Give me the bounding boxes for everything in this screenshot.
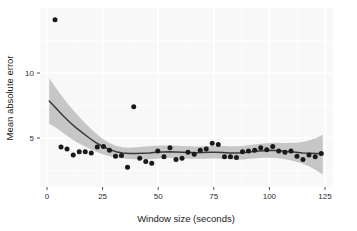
- svg-text:5: 5: [30, 134, 35, 143]
- svg-text:25: 25: [98, 192, 107, 201]
- svg-text:0: 0: [45, 192, 50, 201]
- svg-text:75: 75: [209, 192, 218, 201]
- x-axis-title: Window size (seconds): [137, 213, 235, 224]
- svg-text:100: 100: [263, 192, 277, 201]
- chart-figure: 0255075100125 510 Window size (seconds) …: [0, 0, 357, 231]
- svg-text:125: 125: [318, 192, 332, 201]
- svg-text:10: 10: [25, 69, 34, 78]
- y-axis-title: Mean absolute error: [4, 55, 15, 140]
- scatter-plot: 0255075100125 510 Window size (seconds) …: [0, 0, 357, 231]
- svg-text:50: 50: [154, 192, 163, 201]
- plot-panel-background: [40, 8, 333, 187]
